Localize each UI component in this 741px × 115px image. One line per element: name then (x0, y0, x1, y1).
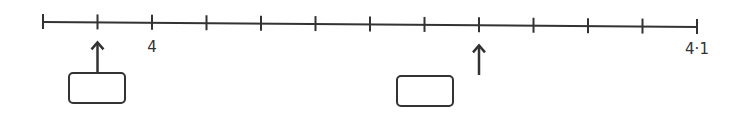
tick-marks (43, 14, 697, 34)
number-line-diagram: 4 4·1 (0, 0, 741, 115)
arrow-up-icon (473, 45, 485, 75)
tick-label-4-1: 4·1 (685, 42, 709, 57)
answer-box-2[interactable] (396, 75, 454, 107)
arrow-up-icon (92, 42, 104, 72)
tick-label-4: 4 (147, 40, 157, 55)
answer-box-1[interactable] (68, 72, 126, 104)
